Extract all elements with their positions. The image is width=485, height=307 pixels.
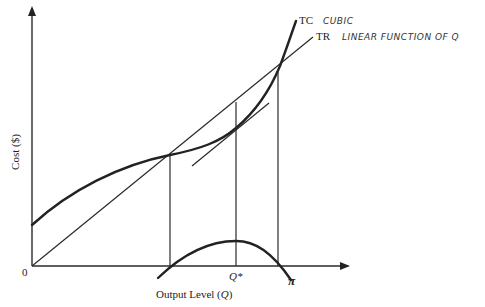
tr-label: TR [316, 30, 331, 42]
tangent-line [192, 103, 269, 166]
profit-label: π [288, 273, 296, 288]
tc-curve [32, 21, 296, 225]
x-axis-label: Output Level (Q) [156, 288, 233, 301]
cost-revenue-diagram: 0 Cost ($) Output Level (Q) Q* π TC CUBI… [0, 0, 485, 307]
tc-annotation: CUBIC [323, 16, 354, 26]
tc-label: TC [299, 14, 313, 26]
tr-line [32, 37, 313, 266]
profit-curve [158, 241, 291, 280]
y-axis-label: Cost ($) [9, 134, 22, 170]
tr-annotation: LINEAR FUNCTION OF Q [342, 32, 459, 42]
q-star-label: Q* [229, 270, 243, 282]
origin-label: 0 [22, 266, 28, 278]
